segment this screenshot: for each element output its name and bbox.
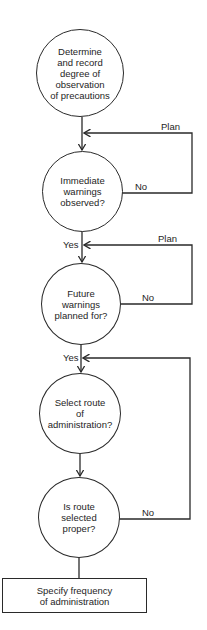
decision-immediate-warnings: Immediate warnings observed? bbox=[42, 151, 123, 232]
edge-label-no-2: No bbox=[142, 292, 154, 303]
edge-label-no-1: No bbox=[135, 181, 147, 192]
process-specify-frequency: Specify frequency of administration bbox=[2, 578, 147, 613]
node-text: Determine and record degree of observati… bbox=[50, 46, 110, 101]
node-determine-record-observation: Determine and record degree of observati… bbox=[36, 29, 124, 117]
node-text: Select route of administration? bbox=[48, 397, 112, 430]
node-text: Specify frequency of administration bbox=[37, 585, 113, 607]
edge-label-yes-2: Yes bbox=[63, 352, 79, 363]
node-text: Future warnings planned for? bbox=[55, 288, 108, 321]
edge-label-plan-2: Plan bbox=[158, 233, 177, 244]
node-text: Is route selected proper? bbox=[61, 501, 96, 534]
edge-label-no-3: No bbox=[142, 507, 154, 518]
edge-label-plan-1: Plan bbox=[161, 121, 180, 132]
decision-future-warnings: Future warnings planned for? bbox=[41, 263, 121, 345]
decision-select-route: Select route of administration? bbox=[39, 373, 121, 454]
decision-route-proper: Is route selected proper? bbox=[38, 477, 120, 558]
node-text: Immediate warnings observed? bbox=[60, 175, 104, 208]
edge-label-yes-1: Yes bbox=[63, 239, 79, 250]
